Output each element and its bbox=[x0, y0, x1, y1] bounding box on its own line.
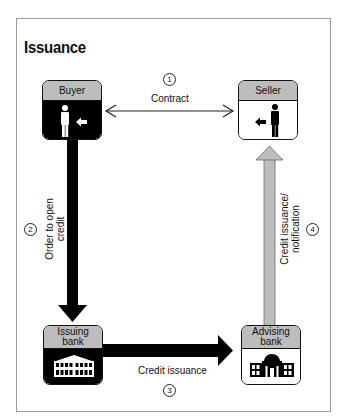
step-4-badge: 4 bbox=[306, 223, 319, 236]
domed-bank-building-icon bbox=[242, 349, 301, 385]
step-3-badge: 3 bbox=[163, 384, 176, 397]
step-1-badge: 1 bbox=[163, 73, 176, 86]
buyer-label: Buyer bbox=[43, 81, 101, 101]
issuing-bank-node: Issuing bank bbox=[43, 325, 103, 385]
step-1-label: Contract bbox=[151, 93, 189, 104]
arrow-left-icon bbox=[43, 101, 102, 140]
step-2-badge: 2 bbox=[24, 223, 37, 236]
seller-node: Seller bbox=[238, 80, 298, 140]
seller-label: Seller bbox=[239, 81, 297, 101]
step-2-label: Order to open credit bbox=[44, 194, 66, 264]
step-3-label: Credit issuance bbox=[138, 365, 207, 376]
credit-issuance-arrow bbox=[101, 335, 233, 366]
advising-bank-label: Advising bank bbox=[242, 326, 300, 349]
issuing-bank-label: Issuing bank bbox=[44, 326, 102, 349]
buyer-node: Buyer bbox=[42, 80, 102, 140]
step-4-label: Credit issuance/ notification bbox=[279, 189, 301, 269]
person-icon bbox=[239, 101, 298, 140]
contract-arrow bbox=[106, 105, 233, 117]
advising-bank-node: Advising bank bbox=[241, 325, 301, 385]
bank-building-icon bbox=[44, 349, 103, 385]
